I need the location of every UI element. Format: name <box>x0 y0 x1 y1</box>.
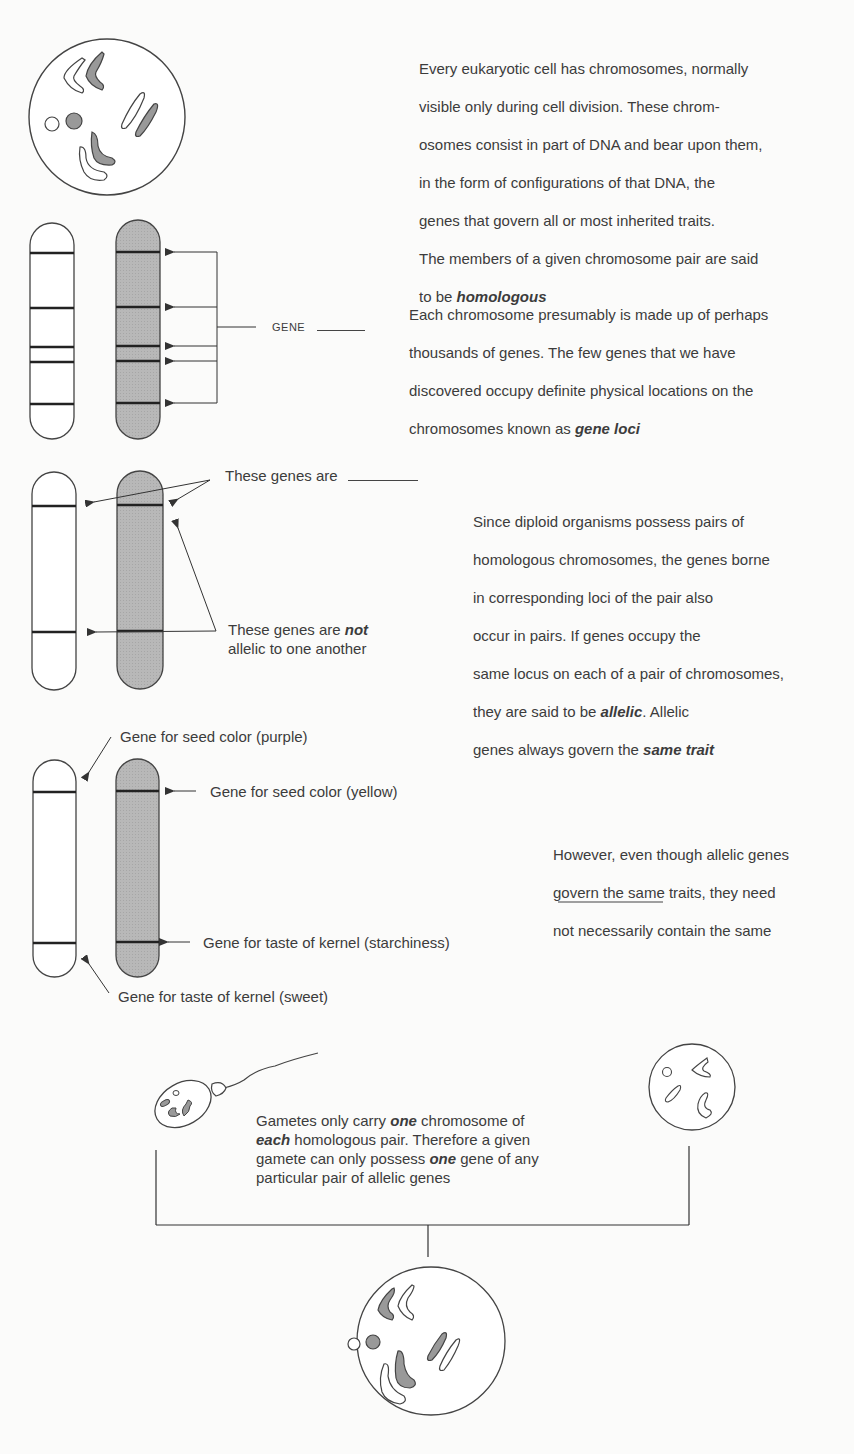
emphasis-not: not <box>345 621 368 638</box>
label-text: These genes are <box>225 467 338 484</box>
text-fragment: chromosomes known as <box>409 420 575 437</box>
text-line: genes that govern all or most inherited … <box>419 211 849 230</box>
text-line: discovered occupy definite physical loca… <box>409 381 854 400</box>
text-line: they are said to be allelic. Allelic <box>473 702 853 721</box>
text-line: chromosomes known as gene loci <box>409 419 854 438</box>
text-line: These genes are not <box>228 620 368 639</box>
text-line: not necessarily contain the same <box>553 921 853 940</box>
allelic-description: Since diploid organisms possess pairs of… <box>473 493 853 778</box>
text-line: visible only during cell division. These… <box>419 97 849 116</box>
text-fragment: Gametes only carry <box>256 1112 390 1129</box>
text-line: However, even though allelic genes <box>553 845 853 864</box>
text-fragment: . Allelic <box>642 703 689 720</box>
zygote-illustration <box>348 1267 505 1415</box>
emphasis-same-trait: same trait <box>643 741 714 758</box>
text-line: Gametes only carry one chromosome of <box>256 1111 616 1130</box>
label-seed-color-yellow: Gene for seed color (yellow) <box>210 782 398 801</box>
gametes-diagram <box>147 1044 735 1415</box>
text-fragment: These genes are <box>228 621 345 638</box>
text-line: homologous chromosomes, the genes borne <box>473 550 853 569</box>
text-line: Since diploid organisms possess pairs of <box>473 512 853 531</box>
gene-label-text: GENE <box>272 321 305 333</box>
traits-description: However, even though allelic genes gover… <box>553 826 853 959</box>
text-line: gamete can only possess one gene of any <box>256 1149 616 1168</box>
text-fragment: genes always govern the <box>473 741 643 758</box>
cell-description: Every eukaryotic cell has chromosomes, n… <box>419 40 849 325</box>
text-line: occur in pairs. If genes occupy the <box>473 626 853 645</box>
emphasis-one: one <box>390 1112 417 1129</box>
gametes-description: Gametes only carry one chromosome of eac… <box>256 1111 616 1187</box>
label-taste-starchiness: Gene for taste of kernel (starchiness) <box>203 933 450 952</box>
text-line: each homologous pair. Therefore a given <box>256 1130 616 1149</box>
text-fragment: they are said to be <box>473 703 601 720</box>
text-fragment: chromosome of <box>417 1112 525 1129</box>
text-line: allelic to one another <box>228 639 368 658</box>
text-fragment: homologous pair. Therefore a given <box>290 1131 530 1148</box>
allelic-label-top: These genes are <box>225 466 418 485</box>
allelic-label-bottom: These genes are not allelic to one anoth… <box>228 620 368 658</box>
egg-illustration <box>649 1044 735 1130</box>
gene-label: GENE <box>272 318 365 337</box>
text-line: Every eukaryotic cell has chromosomes, n… <box>419 59 849 78</box>
text-line: in corresponding loci of the pair also <box>473 588 853 607</box>
text-line: same locus on each of a pair of chromoso… <box>473 664 853 683</box>
text-fragment: gene of any <box>456 1150 539 1167</box>
cell-illustration-top <box>29 39 185 195</box>
gene-loci-description: Each chromosome presumably is made up of… <box>409 286 854 457</box>
text-line: thousands of genes. The few genes that w… <box>409 343 854 362</box>
emphasis-each: each <box>256 1131 290 1148</box>
gene-answer-blank[interactable] <box>317 330 365 331</box>
text-line: govern the same traits, they need <box>553 883 853 902</box>
gene-loci-chromosomes <box>30 220 256 439</box>
emphasis-one: one <box>429 1150 456 1167</box>
label-seed-color-purple: Gene for seed color (purple) <box>120 727 308 746</box>
text-line: osomes consist in part of DNA and bear u… <box>419 135 849 154</box>
text-fragment: gamete can only possess <box>256 1150 429 1167</box>
text-line: The members of a given chromosome pair a… <box>419 249 849 268</box>
allelic-answer-blank[interactable] <box>348 480 418 481</box>
text-line: particular pair of allelic genes <box>256 1168 616 1187</box>
allelic-chromosomes <box>32 471 216 690</box>
text-line: in the form of configurations of that DN… <box>419 173 849 192</box>
text-line: genes always govern the same trait <box>473 740 853 759</box>
label-taste-sweet: Gene for taste of kernel (sweet) <box>118 987 328 1006</box>
emphasis-allelic: allelic <box>601 703 643 720</box>
emphasis-gene-loci: gene loci <box>575 420 640 437</box>
text-line: Each chromosome presumably is made up of… <box>409 305 854 324</box>
